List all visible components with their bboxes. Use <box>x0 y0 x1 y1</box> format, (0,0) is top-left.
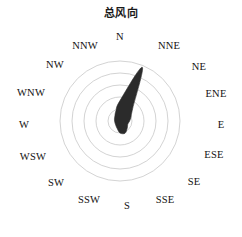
direction-label-nw: NW <box>46 59 64 70</box>
direction-label-wnw: WNW <box>17 87 45 98</box>
direction-label-e: E <box>218 119 225 130</box>
direction-label-se: SE <box>188 176 201 187</box>
wind-rose-polygon <box>114 67 142 134</box>
direction-label-wsw: WSW <box>20 151 46 162</box>
direction-label-ese: ESE <box>204 149 223 160</box>
direction-label-nnw: NNW <box>72 40 98 51</box>
direction-label-ene: ENE <box>205 88 226 99</box>
wind-rose-chart: 总风向 NNNENEENEEESESESSESSSWSWWSWWWNWNWNNW <box>0 0 242 237</box>
direction-label-nne: NNE <box>158 40 180 51</box>
direction-label-n: N <box>116 31 124 42</box>
direction-label-sw: SW <box>48 177 64 188</box>
direction-label-ssw: SSW <box>78 194 100 205</box>
direction-label-sse: SSE <box>156 194 175 205</box>
direction-label-ne: NE <box>192 61 206 72</box>
direction-label-s: S <box>124 200 130 211</box>
direction-label-w: W <box>19 119 29 130</box>
